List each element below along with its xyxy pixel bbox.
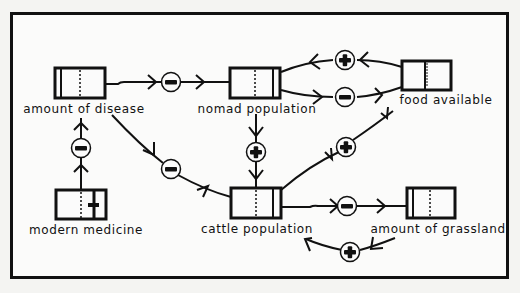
sign-minus-cattle-grassland: [338, 197, 357, 216]
sign-plus-food-nomad: [336, 51, 355, 70]
sign-minus-medicine-disease: [72, 139, 91, 158]
node-label: modern medicine: [29, 223, 143, 237]
node-label: food available: [400, 93, 493, 107]
sign-plus-cattle-food: [337, 138, 356, 157]
node-label: amount of disease: [23, 102, 144, 116]
sign-plus-grassland-cattle: [341, 243, 360, 262]
causal-loop-diagram: amount of disease nomad population food …: [0, 0, 520, 293]
sign-minus-nomad-food: [336, 88, 355, 107]
node-label: nomad population: [198, 102, 317, 116]
sign-minus-disease-cattle: [162, 160, 181, 179]
sign-plus-nomad-cattle: [247, 143, 266, 162]
sign-minus-disease-nomad: [162, 73, 181, 92]
node-label: amount of grassland: [370, 222, 505, 236]
node-label: cattle population: [201, 222, 313, 236]
